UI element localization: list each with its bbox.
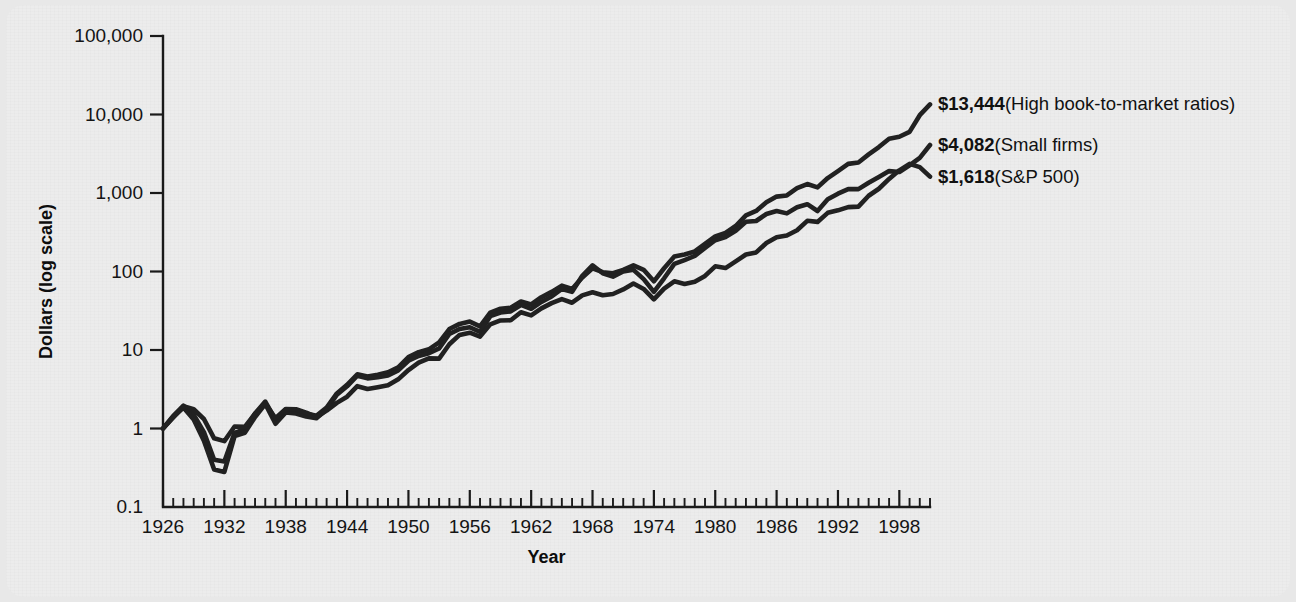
x-tick-label: 1932 bbox=[203, 516, 245, 537]
y-tick-label: 10 bbox=[122, 339, 143, 360]
x-tick-label: 1950 bbox=[387, 516, 429, 537]
x-tick-label: 1980 bbox=[694, 516, 736, 537]
chart-series bbox=[163, 104, 930, 471]
line-chart: 100,00010,0001,0001001010.11926193219381… bbox=[0, 0, 1296, 602]
series-value-small-firms: $4,082 bbox=[938, 134, 995, 155]
x-tick-label: 1956 bbox=[449, 516, 491, 537]
series-label-high-book-to-market: $13,444(High book-to-market ratios) bbox=[938, 95, 1235, 114]
chart-axes bbox=[163, 36, 930, 507]
y-tick-label: 10,000 bbox=[85, 104, 143, 125]
y-tick-label: 100,000 bbox=[74, 25, 143, 46]
axis-lines bbox=[163, 36, 930, 507]
chart-tick-labels: 100,00010,0001,0001001010.11926193219381… bbox=[74, 25, 920, 537]
series-line-high-book-to-market-ratios bbox=[163, 104, 930, 461]
x-tick-label: 1974 bbox=[633, 516, 676, 537]
series-value-sp500: $1,618 bbox=[938, 166, 995, 187]
x-tick-label: 1986 bbox=[755, 516, 797, 537]
x-tick-label: 1926 bbox=[142, 516, 184, 537]
x-tick-label: 1992 bbox=[817, 516, 859, 537]
x-axis-title: Year bbox=[527, 547, 565, 567]
chart-ticks bbox=[150, 36, 930, 507]
y-axis-title: Dollars (log scale) bbox=[36, 204, 56, 359]
series-line-s-p-500 bbox=[163, 164, 930, 441]
series-value-high-book-to-market: $13,444 bbox=[938, 93, 1005, 114]
y-tick-label: 1,000 bbox=[95, 182, 143, 203]
x-tick-label: 1938 bbox=[265, 516, 307, 537]
series-name-high-book-to-market: (High book-to-market ratios) bbox=[1005, 93, 1235, 114]
x-tick-label: 1998 bbox=[878, 516, 920, 537]
axis-titles: Dollars (log scale)Year bbox=[36, 204, 566, 567]
series-label-sp500: $1,618(S&P 500) bbox=[938, 168, 1080, 187]
y-tick-label: 100 bbox=[111, 261, 143, 282]
series-name-sp500: (S&P 500) bbox=[995, 166, 1080, 187]
x-tick-label: 1968 bbox=[571, 516, 613, 537]
series-name-small-firms: (Small firms) bbox=[995, 134, 1099, 155]
y-tick-label: 1 bbox=[132, 418, 143, 439]
figure-container: 100,00010,0001,0001001010.11926193219381… bbox=[0, 0, 1296, 602]
y-tick-label: 0.1 bbox=[117, 496, 143, 517]
x-tick-label: 1962 bbox=[510, 516, 552, 537]
x-tick-label: 1944 bbox=[326, 516, 369, 537]
series-label-small-firms: $4,082(Small firms) bbox=[938, 136, 1098, 155]
series-line-small-firms bbox=[163, 145, 930, 472]
